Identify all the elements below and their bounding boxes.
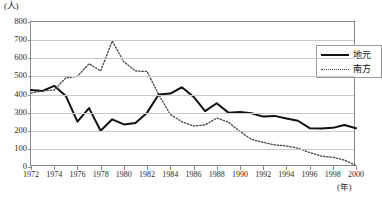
x-axis-tick-label: 1998 [325,170,341,179]
x-axis-tick-mark [333,166,334,170]
gridline [31,76,354,77]
dotted-line-icon [320,64,350,74]
x-axis-tick-mark [101,166,102,170]
gridline [31,131,354,132]
x-axis-tick-mark [31,166,32,170]
gridline [31,113,354,114]
y-axis-tick-label: 400 [1,90,27,99]
y-axis-tick-mark [28,22,31,23]
y-axis-tick-label: 600 [1,53,27,62]
x-axis-tick-label: 1978 [93,170,109,179]
legend-label-jimoto: 地元 [353,50,371,60]
x-axis-tick-label: 1996 [302,170,318,179]
y-axis-tick-label: 500 [1,71,27,80]
x-axis-tick-label: 1992 [255,170,271,179]
x-axis-tick-mark [217,166,218,170]
series-line-jimoto [31,86,356,131]
y-axis-tick-label: 700 [1,35,27,44]
x-axis-tick-mark [194,166,195,170]
x-axis-tick-mark [77,166,78,170]
y-axis-tick-mark [28,40,31,41]
x-axis-tick-mark [240,166,241,170]
y-axis-tick-mark [28,131,31,132]
y-axis-tick-label: 300 [1,108,27,117]
x-axis-tick-label: 2000 [348,170,364,179]
gridline [31,95,354,96]
y-axis-tick-mark [28,95,31,96]
y-axis-tick-mark [28,149,31,150]
x-axis-tick-label: 1994 [278,170,294,179]
x-axis-tick-mark [310,166,311,170]
y-axis-unit-label: (人) [4,1,18,11]
chart-legend: 地元 南方 [316,45,382,78]
plot-area: 地元 南方 8007006005004003002001000197219741… [30,21,355,166]
legend-label-nanpo: 南方 [353,64,371,74]
x-axis-tick-mark [54,166,55,170]
x-axis-tick-label: 1988 [209,170,225,179]
x-axis-tick-label: 1972 [23,170,39,179]
x-axis-tick-label: 1980 [116,170,132,179]
x-axis-tick-label: 1974 [46,170,62,179]
gridline [31,149,354,150]
gridline [31,40,354,41]
x-axis-unit-label: (年) [337,183,352,192]
x-axis-tick-mark [286,166,287,170]
x-axis-tick-mark [263,166,264,170]
x-axis-tick-label: 1984 [162,170,178,179]
x-axis-tick-mark [147,166,148,170]
x-axis-tick-mark [170,166,171,170]
y-axis-tick-mark [28,58,31,59]
y-axis-tick-mark [28,113,31,114]
gridline [31,58,354,59]
x-axis-tick-mark [124,166,125,170]
y-axis-tick-mark [28,76,31,77]
x-axis-tick-mark [356,166,357,170]
x-axis-tick-label: 1976 [69,170,85,179]
y-axis-tick-label: 800 [1,17,27,26]
legend-item-jimoto: 地元 [320,48,378,62]
x-axis-tick-label: 1990 [232,170,248,179]
x-axis-tick-label: 1982 [139,170,155,179]
series-line-nanpo [31,41,356,166]
legend-item-nanpo: 南方 [320,62,378,76]
y-axis-tick-label: 200 [1,126,27,135]
y-axis-tick-label: 100 [1,144,27,153]
x-axis-tick-label: 1986 [186,170,202,179]
